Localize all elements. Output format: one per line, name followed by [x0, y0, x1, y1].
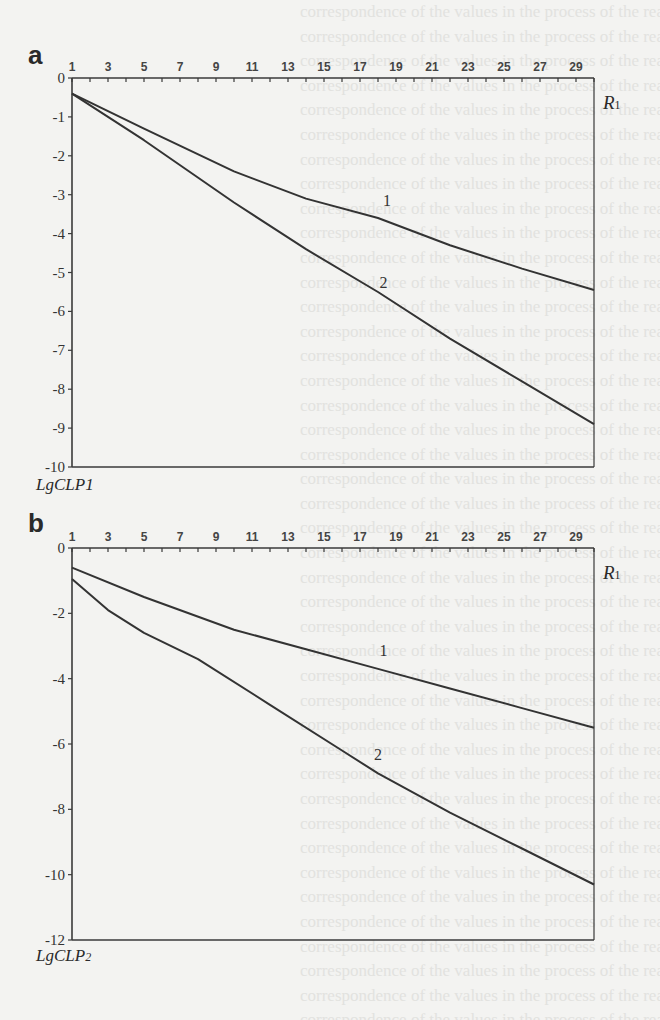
series-annotation: 2: [374, 746, 382, 763]
x-tick-label: 21: [425, 530, 439, 544]
x-tick-label: 15: [317, 530, 331, 544]
series-line-1: [72, 568, 594, 728]
y-axis-label-b: LgCLP2: [36, 946, 91, 966]
y-tick-label: -4: [53, 671, 66, 687]
x-tick-label: 19: [389, 530, 403, 544]
y-axis-label-a: LgCLP1: [36, 475, 94, 495]
y-tick-label: -6: [53, 736, 66, 752]
chart-b: 13579111315171921232527290-2-4-6-8-10-12…: [0, 0, 660, 1020]
x-tick-label: 1: [69, 530, 76, 544]
x-tick-label: 29: [569, 530, 583, 544]
y-tick-label: -8: [53, 801, 66, 817]
y-tick-label: 0: [58, 540, 66, 556]
x-tick-label: 7: [177, 530, 184, 544]
x-tick-label: 11: [246, 530, 259, 544]
series-annotation: 1: [379, 642, 387, 659]
x-tick-label: 9: [213, 530, 220, 544]
x-axis-label-b: R1: [603, 562, 621, 584]
x-tick-label: 5: [141, 530, 148, 544]
x-tick-label: 3: [105, 530, 112, 544]
y-tick-label: -10: [45, 867, 65, 883]
x-tick-label: 17: [353, 530, 367, 544]
x-tick-label: 13: [281, 530, 295, 544]
x-tick-label: 23: [461, 530, 475, 544]
x-tick-label: 27: [533, 530, 547, 544]
series-line-2: [72, 579, 594, 885]
x-tick-label: 25: [497, 530, 511, 544]
y-tick-label: -2: [53, 605, 66, 621]
x-axis-label-a: R1: [603, 92, 621, 114]
